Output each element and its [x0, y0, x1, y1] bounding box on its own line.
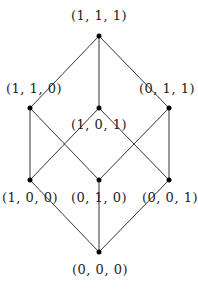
- edges: [30, 36, 169, 252]
- lattice-diagram: [0, 0, 198, 291]
- node-101: [97, 106, 102, 111]
- label-001: (0, 0, 1): [142, 190, 198, 205]
- edge-111-110: [30, 36, 99, 108]
- label-110: (1, 1, 0): [6, 81, 62, 96]
- label-000: (0, 0, 0): [72, 262, 128, 277]
- label-101: (1, 0, 1): [71, 117, 127, 132]
- node-111: [97, 34, 102, 39]
- label-111: (1, 1, 1): [71, 8, 127, 23]
- node-100: [28, 178, 33, 183]
- label-100: (1, 0, 0): [2, 190, 58, 205]
- edge-111-011: [99, 36, 169, 108]
- node-011: [167, 106, 172, 111]
- label-010: (0, 1, 0): [71, 190, 127, 205]
- node-110: [28, 106, 33, 111]
- node-001: [167, 178, 172, 183]
- node-000: [97, 250, 102, 255]
- label-011: (0, 1, 1): [139, 81, 195, 96]
- node-010: [97, 178, 102, 183]
